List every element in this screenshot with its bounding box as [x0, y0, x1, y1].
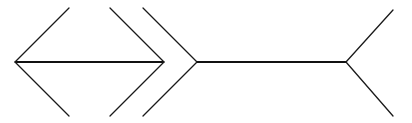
- left-figure-arrowheads-inward: [15, 8, 164, 116]
- right-figure-right-tail-upper: [346, 10, 393, 62]
- right-figure-left-tail-upper: [143, 8, 197, 62]
- right-figure-right-tail-lower: [346, 62, 393, 116]
- left-figure-left-head-lower: [15, 62, 69, 116]
- right-figure-left-tail-lower: [143, 62, 197, 116]
- left-figure-left-head-upper: [15, 8, 69, 62]
- left-figure-right-head-upper: [110, 8, 164, 62]
- muller-lyer-diagram: [0, 0, 412, 123]
- right-figure-fins-outward: [143, 8, 393, 116]
- left-figure-right-head-lower: [110, 62, 164, 116]
